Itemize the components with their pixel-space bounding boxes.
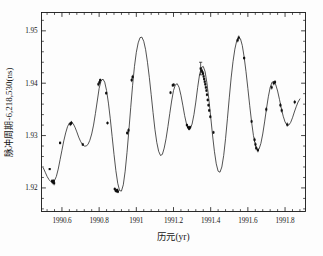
y-tick-label: 1.95: [25, 27, 38, 35]
data-point: [204, 83, 206, 85]
x-axis-label: 历元(yr): [157, 232, 189, 243]
data-point: [126, 132, 128, 134]
figure-page: 1990.61990.819911991.21991.41991.61991.8…: [0, 0, 323, 256]
data-point: [131, 79, 133, 81]
data-point: [281, 109, 283, 111]
data-point: [279, 104, 281, 106]
data-point: [53, 182, 55, 184]
x-tick-label: 1991.8: [275, 217, 295, 225]
y-tick-label: 1.92: [25, 184, 38, 192]
data-point: [189, 126, 191, 128]
data-point: [206, 94, 208, 96]
data-point: [105, 92, 107, 94]
data-point: [202, 73, 204, 75]
data-point: [173, 84, 175, 86]
data-point: [238, 37, 240, 39]
x-tick-label: 1991: [129, 217, 143, 225]
x-tick-label: 1991.2: [164, 217, 184, 225]
data-point: [207, 104, 209, 106]
data-point: [82, 143, 84, 145]
data-point: [132, 76, 134, 78]
data-point: [205, 89, 207, 91]
data-point: [127, 129, 129, 131]
data-point: [207, 99, 209, 101]
x-tick-label: 1990.6: [52, 217, 72, 225]
x-tick-label: 1990.8: [90, 217, 110, 225]
x-tick-label: 1991.4: [201, 217, 221, 225]
data-point: [200, 67, 202, 69]
data-point: [209, 116, 211, 118]
data-point: [255, 147, 257, 149]
pulsar-period-chart: 1990.61990.819911991.21991.41991.61991.8…: [0, 0, 323, 256]
y-axis-label: 脉冲周期-6,218,530(ns): [3, 68, 14, 157]
data-point: [251, 120, 253, 122]
y-tick-label: 1.93: [25, 132, 38, 140]
data-point: [186, 124, 188, 126]
y-tick-label: 1.94: [25, 80, 38, 88]
data-point: [59, 142, 61, 144]
x-tick-label: 1991.6: [238, 217, 258, 225]
data-point: [169, 92, 171, 94]
data-point: [254, 139, 256, 141]
data-point: [106, 122, 108, 124]
chart-svg: 1990.61990.819911991.21991.41991.61991.8…: [0, 0, 323, 256]
data-point: [237, 39, 239, 41]
data-point: [212, 131, 214, 133]
data-point: [203, 75, 205, 77]
data-point: [97, 83, 99, 85]
data-point: [53, 180, 55, 182]
data-point: [204, 81, 206, 83]
data-point: [203, 78, 205, 80]
data-point: [257, 149, 259, 151]
data-point: [98, 81, 100, 83]
data-point: [294, 101, 296, 103]
data-point: [243, 57, 245, 59]
data-point: [254, 143, 256, 145]
data-point: [205, 86, 207, 88]
data-point: [70, 122, 72, 124]
data-point: [271, 86, 273, 88]
data-point: [117, 191, 119, 193]
data-point: [99, 79, 101, 81]
data-point: [274, 81, 276, 83]
data-point: [265, 108, 267, 110]
data-point: [49, 168, 51, 170]
data-point: [208, 109, 210, 111]
data-point: [286, 124, 288, 126]
